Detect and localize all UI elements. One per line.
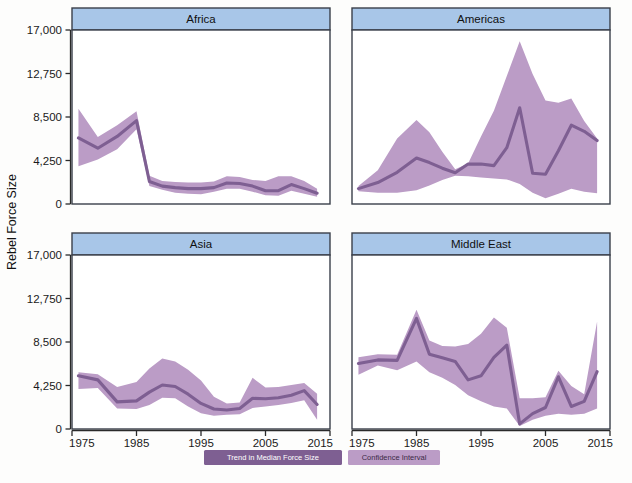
x-axis-tick-label: 1985 (124, 437, 150, 449)
y-axis-tick-label: 0 (56, 198, 62, 210)
panel-strip-label: Americas (457, 13, 505, 25)
x-axis-tick-label: 1995 (468, 437, 494, 449)
legend-label: Trend in Median Force Size (227, 453, 319, 462)
y-axis-tick-label: 12,750 (27, 68, 62, 80)
panel-strip-label: Asia (190, 238, 213, 250)
y-axis-tick-label: 17,000 (27, 24, 62, 36)
facet-panel-middle-east: Middle East (352, 233, 610, 429)
legend-label: Confidence Interval (362, 453, 427, 462)
x-axis-tick-label: 1995 (188, 437, 214, 449)
y-axis-tick-label: 8,500 (33, 111, 62, 123)
x-axis-tick-label: 2015 (587, 437, 613, 449)
panel-strip-label: Middle East (451, 238, 512, 250)
y-axis-tick-label: 8,500 (33, 336, 62, 348)
facet-panel-asia: Asia (72, 233, 330, 429)
y-axis-title: Rebel Force Size (5, 174, 19, 270)
y-axis-tick-label: 4,250 (33, 155, 62, 167)
legend-item: Trend in Median Force Size (204, 450, 342, 465)
x-axis-tick-label: 2005 (533, 437, 559, 449)
facet-panel-africa: Africa (72, 8, 330, 204)
y-axis-tick-label: 0 (56, 423, 62, 435)
x-axis-tick-label: 1985 (404, 437, 430, 449)
y-axis-tick-label: 17,000 (27, 249, 62, 261)
x-axis-tick-label: 2005 (253, 437, 279, 449)
x-axis-tick-label: 1975 (69, 437, 95, 449)
chart-legend: Trend in Median Force SizeConfidence Int… (204, 450, 440, 465)
y-axis-tick-label: 4,250 (33, 380, 62, 392)
x-axis-tick-label: 2015 (307, 437, 333, 449)
panel-strip-label: Africa (186, 13, 216, 25)
x-axis-tick-label: 1975 (349, 437, 375, 449)
facet-panel-americas: Americas (352, 8, 610, 204)
legend-item: Confidence Interval (348, 450, 440, 465)
y-axis-tick-label: 12,750 (27, 293, 62, 305)
rebel-force-size-facet-chart: Rebel Force Size AfricaAmericasAsiaMiddl… (0, 0, 632, 483)
